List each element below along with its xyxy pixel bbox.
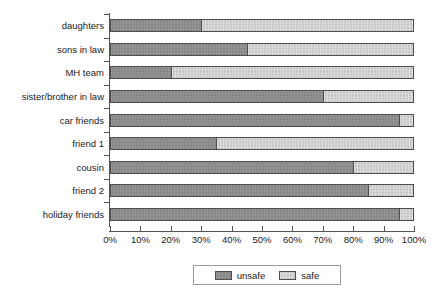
bar-row	[110, 184, 414, 197]
x-axis-label: 0%	[103, 234, 117, 245]
bar-segment-unsafe	[110, 43, 247, 56]
x-axis-label: 40%	[222, 234, 241, 245]
bar-segment-safe	[201, 19, 414, 32]
bar-row	[110, 66, 414, 79]
y-axis-tick	[104, 14, 109, 15]
x-axis-tick	[232, 226, 233, 232]
y-axis-label: car friends	[2, 115, 104, 126]
bar-segment-unsafe	[110, 19, 201, 32]
y-axis-tick	[104, 202, 109, 203]
bar-row	[110, 90, 414, 103]
y-axis-tick	[104, 38, 109, 39]
bar-segment-unsafe	[110, 90, 323, 103]
x-axis-tick	[110, 226, 111, 232]
x-axis-tick	[414, 226, 415, 232]
x-axis-label: 60%	[283, 234, 302, 245]
bar-segment-unsafe	[110, 161, 353, 174]
y-axis-tick	[104, 132, 109, 133]
y-axis-label: daughters	[2, 20, 104, 31]
legend-swatch-safe	[279, 271, 296, 280]
bar-segment-safe	[323, 90, 414, 103]
plot-area	[110, 14, 414, 226]
chart-legend: unsafesafe	[193, 265, 341, 285]
stacked-bar-chart: daughterssons in lawMH teamsister/brothe…	[0, 0, 447, 297]
legend-swatch-unsafe	[215, 271, 232, 280]
bar-row	[110, 43, 414, 56]
bar-segment-unsafe	[110, 184, 368, 197]
bar-segment-unsafe	[110, 137, 216, 150]
y-axis-label: cousin	[2, 162, 104, 173]
y-axis-tick	[104, 108, 109, 109]
bar-segment-unsafe	[110, 208, 399, 221]
bar-segment-safe	[399, 114, 414, 127]
y-axis-labels: daughterssons in lawMH teamsister/brothe…	[0, 0, 104, 297]
bar-row	[110, 114, 414, 127]
x-axis-label: 90%	[374, 234, 393, 245]
x-axis-label: 70%	[313, 234, 332, 245]
x-axis-label: 30%	[192, 234, 211, 245]
x-axis-tick	[262, 226, 263, 232]
y-axis-label: holiday friends	[2, 209, 104, 220]
x-axis-tick	[171, 226, 172, 232]
y-axis-tick	[104, 179, 109, 180]
bar-segment-safe	[353, 161, 414, 174]
y-axis-label: friend 1	[2, 138, 104, 149]
bar-segment-safe	[216, 137, 414, 150]
bar-row	[110, 19, 414, 32]
bar-segment-safe	[247, 43, 414, 56]
bar-row	[110, 161, 414, 174]
x-axis-label: 100%	[402, 234, 426, 245]
x-axis-label: 80%	[344, 234, 363, 245]
legend-label: unsafe	[237, 270, 266, 281]
y-axis-tick	[104, 85, 109, 86]
x-axis-label: 50%	[252, 234, 271, 245]
x-axis-tick	[292, 226, 293, 232]
x-axis-tick	[323, 226, 324, 232]
x-axis-tick	[384, 226, 385, 232]
bar-row	[110, 137, 414, 150]
y-axis-label: sister/brother in law	[2, 91, 104, 102]
x-axis-tick	[201, 226, 202, 232]
bar-segment-unsafe	[110, 66, 171, 79]
x-axis-tick	[353, 226, 354, 232]
y-axis-tick	[104, 155, 109, 156]
legend-entry-unsafe[interactable]: unsafe	[215, 270, 266, 281]
y-axis-tick	[104, 61, 109, 62]
legend-label: safe	[301, 270, 319, 281]
x-axis-label: 10%	[131, 234, 150, 245]
bar-segment-unsafe	[110, 114, 399, 127]
y-axis-label: friend 2	[2, 185, 104, 196]
bar-row	[110, 208, 414, 221]
y-axis-label: MH team	[2, 67, 104, 78]
x-axis-tick	[140, 226, 141, 232]
bar-segment-safe	[399, 208, 414, 221]
x-axis-label: 20%	[161, 234, 180, 245]
legend-entry-safe[interactable]: safe	[279, 270, 319, 281]
bar-segment-safe	[171, 66, 414, 79]
y-axis-label: sons in law	[2, 44, 104, 55]
bar-rows	[110, 14, 414, 226]
bar-segment-safe	[368, 184, 414, 197]
